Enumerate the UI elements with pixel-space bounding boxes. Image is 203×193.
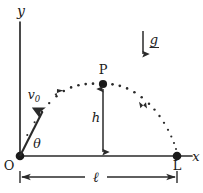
initial-velocity-label: v0 xyxy=(28,87,41,104)
apex-point-dot xyxy=(99,80,107,88)
figure-canvas: y x O xyxy=(0,0,203,193)
projectile-motion-figure: y x O xyxy=(0,0,203,193)
gravity-vector-group: g xyxy=(143,31,159,54)
initial-velocity-symbol: v xyxy=(28,87,35,102)
landing-point-label: L xyxy=(173,158,182,173)
axes-group xyxy=(20,22,192,156)
apex-point-group: P xyxy=(99,62,108,88)
landing-point-group: L xyxy=(173,152,182,173)
range-label: ℓ xyxy=(93,169,99,185)
height-label: h xyxy=(92,110,100,125)
trajectory-path xyxy=(26,82,177,150)
y-axis-label: y xyxy=(16,3,26,19)
launch-angle-group: θ xyxy=(32,136,44,156)
range-dimension: ℓ xyxy=(20,169,177,185)
apex-point-label: P xyxy=(99,62,108,77)
trajectory-direction-marker-descending xyxy=(139,102,147,109)
x-axis-label: x xyxy=(192,149,200,164)
origin-label: O xyxy=(4,158,15,173)
height-dimension: h xyxy=(92,89,103,152)
gravity-label: g xyxy=(150,32,158,47)
launch-angle-label: θ xyxy=(33,136,41,151)
initial-velocity-subscript: 0 xyxy=(35,94,41,104)
